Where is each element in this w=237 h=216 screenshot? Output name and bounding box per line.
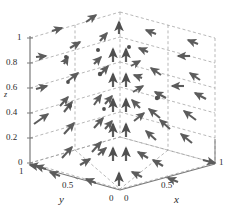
arrows-centre-column	[113, 22, 126, 186]
y-tick-0: 0	[109, 193, 114, 203]
arrows-floor	[36, 148, 178, 183]
vector-field-canvas	[0, 0, 237, 216]
z-tick-08: 0.8	[6, 57, 17, 67]
z-tick-06: 0.6	[6, 82, 17, 92]
xy-axis-ticks	[74, 176, 170, 179]
y-tick-1: 1	[19, 166, 24, 176]
arrows-left-wall	[30, 15, 108, 167]
y-tick-05: 0.5	[62, 180, 73, 190]
z-tick-1: 1	[17, 32, 22, 42]
x-tick-1: 1	[219, 157, 224, 167]
x-tick-0: 0	[124, 193, 129, 203]
grid-floor	[30, 137, 215, 189]
z-tick-04: 0.4	[6, 107, 17, 117]
grid-right-wall	[120, 12, 215, 163]
x-axis-label: x	[174, 193, 179, 205]
y-axis-label: y	[59, 193, 64, 205]
x-tick-05: 0.5	[161, 180, 172, 190]
arrow-dots-left-wall	[64, 45, 159, 111]
z-tick-02: 0.2	[6, 132, 17, 142]
figure-root: z x y 1 0.8 0.6 0.4 0.2 0 1 0.5 0 0 0.5 …	[0, 0, 237, 216]
arrows-right-wall	[132, 30, 215, 163]
